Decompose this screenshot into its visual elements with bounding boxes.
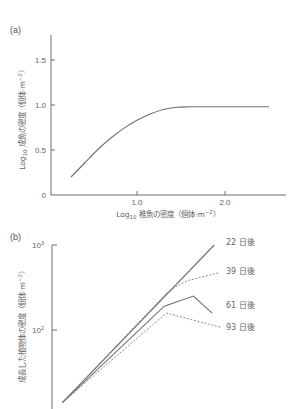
- series-labels-b: 22 日後39 日後61 日後93 日後: [226, 237, 255, 332]
- series-label: 22 日後: [226, 237, 255, 247]
- y-axis-title-a: Log10 成魚の密度（個体·m−2）: [17, 66, 28, 170]
- series-label: 93 日後: [226, 322, 255, 332]
- y-ticks-b: 102103: [32, 240, 57, 336]
- series-label: 61 日後: [226, 300, 255, 310]
- panel-label-b: (b): [10, 232, 21, 242]
- x-ticks-a: 1.02.0: [131, 191, 231, 207]
- x-axis-title-a: Log10 稚魚の密度（個体·m−2）: [116, 209, 220, 220]
- y-tick-label: 103: [32, 240, 44, 251]
- data-line: [71, 107, 269, 177]
- y-tick-label: 1.5: [35, 56, 47, 65]
- y-tick-label: 0.5: [35, 146, 47, 155]
- y-tick-label: 1.0: [35, 101, 47, 110]
- data-line: [62, 296, 212, 403]
- x-tick-label: 1.0: [131, 198, 143, 207]
- figure: (a) 00.51.01.5 1.02.0 Log10 稚魚の密度（個体·m−2…: [0, 0, 299, 409]
- y-tick-label: 0: [42, 191, 47, 200]
- chart-panel-b: (b) 102103 22 日後39 日後61 日後93 日後 成長した植物体の…: [10, 232, 255, 409]
- chart-panel-a: (a) 00.51.01.5 1.02.0 Log10 稚魚の密度（個体·m−2…: [10, 25, 286, 220]
- y-axis-title-b: 成長した植物体の密度（個体·m−2）: [17, 267, 27, 383]
- series-label: 39 日後: [226, 266, 255, 276]
- y-ticks-a: 00.51.01.5: [35, 56, 55, 200]
- series-b: [62, 245, 220, 403]
- series-a: [71, 107, 269, 177]
- y-tick-label: 102: [32, 325, 44, 336]
- panel-label-a: (a): [10, 25, 21, 35]
- data-line: [62, 313, 220, 402]
- x-tick-label: 2.0: [219, 198, 231, 207]
- data-line: [62, 273, 218, 403]
